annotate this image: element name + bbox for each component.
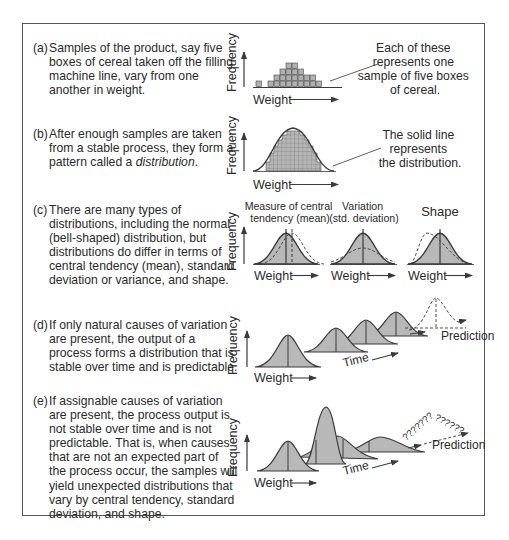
time-label: Time bbox=[341, 350, 370, 370]
cereal-box-sample bbox=[298, 75, 303, 80]
cereal-box-sample bbox=[280, 81, 285, 86]
histogram-grid bbox=[266, 131, 321, 171]
cereal-box-sample bbox=[310, 81, 315, 86]
cereal-box-sample bbox=[292, 63, 297, 68]
panel-title-mean: Measure of central tendency (mean) bbox=[245, 200, 336, 224]
annotation-a: Each of these represents one sample of f… bbox=[358, 41, 473, 97]
chart-d: Frequency Prediction Weight Time bbox=[226, 298, 494, 385]
ylabel-frequency: Frequency bbox=[225, 32, 239, 92]
cereal-box-sample bbox=[292, 69, 297, 74]
cereal-box-sample bbox=[286, 75, 291, 80]
cereal-box-sample bbox=[292, 81, 297, 86]
time-arrow-icon bbox=[372, 461, 398, 468]
cereal-box-sample bbox=[304, 75, 309, 80]
cereal-box-sample bbox=[286, 63, 291, 68]
ylabel-frequency: Frequency bbox=[225, 115, 239, 175]
xlabel-weight: Weight bbox=[253, 178, 292, 192]
annotation-leader-line bbox=[333, 148, 381, 166]
xlabel-weight: Weight bbox=[254, 476, 293, 490]
box-stacks bbox=[256, 63, 321, 86]
xlabel-weight: Weight bbox=[254, 371, 293, 385]
time-arrow-icon bbox=[372, 353, 398, 360]
cereal-box-sample bbox=[286, 81, 291, 86]
diagram-graphics: Frequency Weight Each of these represent… bbox=[0, 0, 509, 540]
cereal-box-sample bbox=[274, 81, 279, 86]
time-label: Time bbox=[341, 458, 370, 478]
cereal-box-sample bbox=[304, 81, 309, 86]
cereal-box-sample bbox=[286, 69, 291, 74]
chart-b: Frequency Weight The solid line represen… bbox=[225, 115, 461, 192]
chart-c: Frequency Measure of central tendency (m… bbox=[225, 200, 474, 283]
annotation-b: The solid line represents the distributi… bbox=[379, 128, 462, 170]
distribution-curve-narrow bbox=[305, 407, 346, 464]
xlabel-weight: Weight bbox=[408, 269, 447, 283]
cereal-box-sample bbox=[292, 75, 297, 80]
cereal-box-sample bbox=[268, 81, 273, 86]
cereal-box-sample bbox=[310, 75, 315, 80]
cereal-box-sample bbox=[256, 81, 261, 86]
prediction-label: Prediction bbox=[432, 438, 485, 452]
panel-title-shape: Shape bbox=[421, 204, 459, 219]
ylabel-frequency: Frequency bbox=[226, 417, 240, 477]
prediction-label: Prediction bbox=[441, 329, 494, 343]
xlabel-weight: Weight bbox=[254, 269, 293, 283]
cereal-box-sample bbox=[298, 69, 303, 74]
ylabel-frequency: Frequency bbox=[225, 211, 239, 271]
xlabel-weight: Weight bbox=[253, 93, 292, 107]
cereal-box-sample bbox=[274, 75, 279, 80]
panel-title-variation: Variation (std. deviation) bbox=[329, 200, 398, 224]
xlabel-weight: Weight bbox=[331, 269, 370, 283]
cereal-box-sample bbox=[280, 75, 285, 80]
cereal-box-sample bbox=[280, 69, 285, 74]
ylabel-frequency: Frequency bbox=[226, 315, 240, 375]
cereal-box-sample bbox=[298, 81, 303, 86]
chart-a: Frequency Weight Each of these represent… bbox=[225, 32, 472, 107]
cereal-box-sample bbox=[316, 81, 321, 86]
prediction-curve-dashed bbox=[409, 298, 460, 330]
